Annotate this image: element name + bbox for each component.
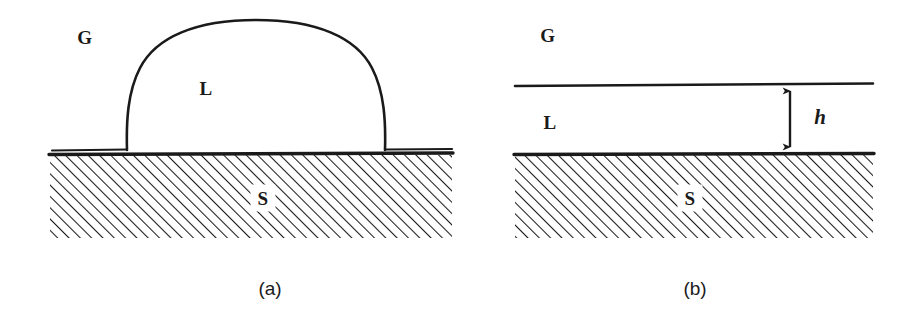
liquid-phase-label-a: L xyxy=(199,79,212,98)
droplet-profile-a xyxy=(127,20,385,150)
panel-a-partial-wetting: G L S (a) xyxy=(0,0,459,319)
caption-panel-a: (a) xyxy=(258,279,281,298)
figure-root: G L S (a) xyxy=(0,0,918,319)
liquid-phase-label-b: L xyxy=(543,113,556,132)
panel-b-drawing xyxy=(459,0,918,319)
caption-panel-b: (b) xyxy=(683,279,706,298)
liquid-surface-line-b xyxy=(515,84,873,87)
panel-b-complete-wetting: G L S h (b) xyxy=(459,0,918,319)
solid-surface-line-b xyxy=(514,154,874,155)
solid-surface-line-a xyxy=(49,153,453,155)
baseline-left-a xyxy=(52,150,127,151)
gas-phase-label-b: G xyxy=(540,26,555,45)
panel-a-drawing xyxy=(0,0,459,319)
solid-phase-label-a: S xyxy=(250,185,275,212)
gas-phase-label-a: G xyxy=(77,28,92,47)
film-thickness-symbol-h: h xyxy=(814,107,826,128)
baseline-right-a xyxy=(385,149,452,150)
solid-phase-label-b: S xyxy=(677,185,702,212)
